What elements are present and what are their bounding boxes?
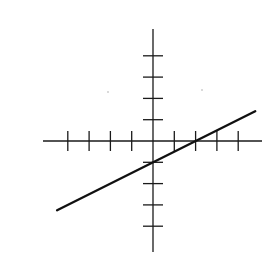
line-series	[57, 111, 255, 210]
speck	[201, 89, 202, 90]
plotted-line	[57, 111, 255, 210]
coordinate-plane	[0, 0, 274, 257]
scan-specks	[107, 89, 202, 92]
speck	[107, 91, 108, 92]
